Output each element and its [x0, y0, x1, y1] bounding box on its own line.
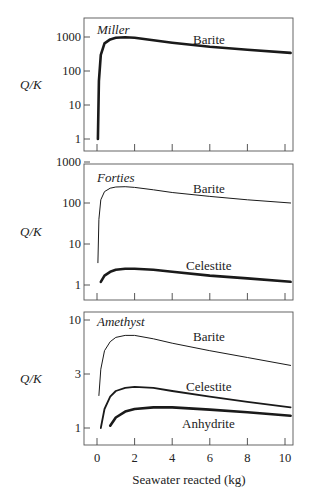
- y-tick-label: 10: [69, 237, 82, 251]
- x-tick-label: 6: [207, 451, 213, 465]
- series-label-barite: Barite: [193, 32, 225, 47]
- figure-qk-vs-seawater: 1101001000Q/KMillerBarite1101001000Q/KFo…: [0, 0, 309, 498]
- y-tick-label: 10: [69, 313, 82, 327]
- series-label-barite: Barite: [193, 329, 225, 344]
- x-tick-label: 4: [169, 451, 176, 465]
- y-tick-label: 10: [69, 98, 82, 112]
- y-tick-label: 100: [62, 196, 81, 210]
- y-tick-label: 1: [75, 278, 81, 292]
- y-tick-label: 1: [75, 132, 81, 146]
- x-tick-label: 0: [94, 451, 100, 465]
- y-tick-label: 1: [75, 421, 81, 435]
- series-line-barite: [98, 37, 291, 139]
- series-label-celestite: Celestite: [186, 379, 232, 394]
- y-tick-label: 1000: [56, 30, 81, 44]
- panel-title: Amethyst: [96, 314, 145, 329]
- y-tick-label: 3: [75, 367, 81, 381]
- y-axis-label: Q/K: [20, 77, 43, 92]
- panel-title: Miller: [96, 22, 130, 37]
- x-axis-label: Seawater reacted (kg): [132, 472, 245, 487]
- x-tick-label: 8: [244, 451, 250, 465]
- y-axis-label: Q/K: [20, 371, 43, 386]
- y-axis-label: Q/K: [20, 224, 43, 239]
- y-tick-label: 100: [62, 64, 81, 78]
- x-tick-label: 10: [279, 451, 292, 465]
- series-label-barite: Barite: [193, 181, 225, 196]
- panel-title: Forties: [96, 170, 135, 185]
- series-label-celestite: Celestite: [186, 258, 232, 273]
- y-tick-label: 1000: [56, 155, 81, 169]
- series-label-anhydrite: Anhydrite: [182, 416, 235, 431]
- series-line-barite: [98, 187, 291, 263]
- x-tick-label: 2: [131, 451, 137, 465]
